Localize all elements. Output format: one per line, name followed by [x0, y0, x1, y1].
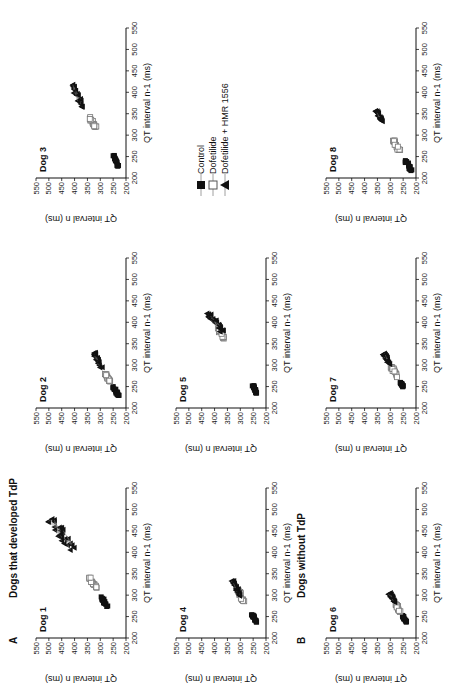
svg-text:200: 200 — [122, 642, 131, 655]
svg-text:QT interval n-1 (ms): QT interval n-1 (ms) — [142, 63, 152, 143]
svg-text:500: 500 — [130, 43, 139, 56]
svg-text:500: 500 — [184, 412, 193, 425]
svg-text:450: 450 — [347, 642, 356, 655]
svg-text:300: 300 — [270, 589, 279, 602]
svg-text:550: 550 — [172, 642, 181, 655]
svg-text:400: 400 — [420, 86, 429, 99]
svg-text:250: 250 — [109, 412, 118, 425]
figure: A Dogs that developed TdP B Dogs without… — [0, 0, 449, 696]
svg-text:QT interval n (ms): QT interval n (ms) — [185, 444, 257, 454]
plot-dog-1: 2002002502503003003503504004004504505005… — [22, 481, 157, 686]
section-a-letter: A — [8, 637, 19, 644]
svg-text:500: 500 — [44, 412, 53, 425]
svg-text:QT interval n-1 (ms): QT interval n-1 (ms) — [142, 293, 152, 373]
svg-text:350: 350 — [83, 182, 92, 195]
svg-text:400: 400 — [420, 546, 429, 559]
svg-text:350: 350 — [270, 337, 279, 350]
svg-text:450: 450 — [270, 295, 279, 308]
svg-text:400: 400 — [130, 546, 139, 559]
svg-text:300: 300 — [130, 359, 139, 372]
svg-text:450: 450 — [57, 182, 66, 195]
svg-text:450: 450 — [57, 642, 66, 655]
svg-text:550: 550 — [322, 182, 331, 195]
svg-text:550: 550 — [322, 642, 331, 655]
svg-text:350: 350 — [83, 642, 92, 655]
svg-text:550: 550 — [270, 252, 279, 265]
svg-text:450: 450 — [270, 525, 279, 538]
plot-dog-2: 2002002502503003003503504004004504505005… — [22, 251, 157, 456]
legend-item-dofetilide: Dofetilide — [207, 83, 219, 196]
svg-text:200: 200 — [130, 402, 139, 415]
svg-text:500: 500 — [44, 642, 53, 655]
svg-text:300: 300 — [236, 642, 245, 655]
svg-text:400: 400 — [270, 316, 279, 329]
svg-text:QT interval n (ms): QT interval n (ms) — [45, 674, 117, 684]
svg-text:200: 200 — [130, 632, 139, 645]
svg-text:Dog 2: Dog 2 — [38, 377, 48, 402]
svg-text:250: 250 — [109, 182, 118, 195]
svg-text:550: 550 — [420, 252, 429, 265]
svg-text:400: 400 — [270, 546, 279, 559]
svg-text:QT interval n-1 (ms): QT interval n-1 (ms) — [432, 63, 442, 143]
svg-text:450: 450 — [130, 525, 139, 538]
svg-text:550: 550 — [32, 412, 41, 425]
svg-text:QT interval n-1 (ms): QT interval n-1 (ms) — [432, 523, 442, 603]
svg-text:500: 500 — [184, 642, 193, 655]
svg-text:500: 500 — [420, 273, 429, 286]
svg-text:Dog 3: Dog 3 — [38, 147, 48, 172]
svg-text:300: 300 — [270, 359, 279, 372]
svg-text:450: 450 — [347, 182, 356, 195]
svg-text:550: 550 — [420, 482, 429, 495]
svg-text:200: 200 — [130, 172, 139, 185]
svg-text:250: 250 — [130, 610, 139, 623]
svg-text:300: 300 — [96, 182, 105, 195]
svg-text:250: 250 — [399, 642, 408, 655]
svg-text:300: 300 — [130, 589, 139, 602]
plot-dog-6: 2002002502503003003503504004004504505005… — [312, 481, 447, 686]
svg-text:400: 400 — [210, 412, 219, 425]
svg-text:QT interval n (ms): QT interval n (ms) — [335, 444, 407, 454]
svg-text:200: 200 — [420, 172, 429, 185]
svg-text:500: 500 — [420, 43, 429, 56]
svg-text:350: 350 — [83, 412, 92, 425]
svg-text:300: 300 — [420, 129, 429, 142]
svg-text:250: 250 — [420, 150, 429, 163]
svg-text:350: 350 — [420, 107, 429, 120]
legend-item-control: Control — [195, 83, 207, 196]
svg-text:500: 500 — [420, 503, 429, 516]
svg-text:450: 450 — [347, 412, 356, 425]
legend-item-dofetilide-hmr: Dofetilide + HMR 1556 — [219, 83, 231, 196]
svg-text:350: 350 — [223, 412, 232, 425]
svg-text:550: 550 — [322, 412, 331, 425]
svg-text:Dog 5: Dog 5 — [178, 377, 188, 402]
svg-text:300: 300 — [96, 412, 105, 425]
svg-text:400: 400 — [360, 642, 369, 655]
svg-text:250: 250 — [270, 610, 279, 623]
svg-text:350: 350 — [420, 567, 429, 580]
svg-text:350: 350 — [270, 567, 279, 580]
svg-text:450: 450 — [130, 65, 139, 78]
svg-text:450: 450 — [130, 295, 139, 308]
filled-square-marker-icon — [195, 174, 207, 196]
svg-text:200: 200 — [420, 402, 429, 415]
svg-text:350: 350 — [373, 642, 382, 655]
svg-text:QT interval n (ms): QT interval n (ms) — [335, 214, 407, 224]
svg-text:200: 200 — [412, 182, 421, 195]
svg-text:450: 450 — [197, 412, 206, 425]
svg-text:500: 500 — [44, 182, 53, 195]
svg-text:550: 550 — [130, 482, 139, 495]
plot-dog-3: 2002002502503003003503504004004504505005… — [22, 21, 157, 226]
svg-text:250: 250 — [270, 380, 279, 393]
svg-text:250: 250 — [249, 642, 258, 655]
svg-text:250: 250 — [399, 412, 408, 425]
svg-text:500: 500 — [130, 503, 139, 516]
svg-text:400: 400 — [70, 642, 79, 655]
svg-text:300: 300 — [130, 129, 139, 142]
svg-text:250: 250 — [399, 182, 408, 195]
svg-text:400: 400 — [360, 412, 369, 425]
svg-text:Dog 1: Dog 1 — [38, 607, 48, 632]
svg-text:400: 400 — [70, 182, 79, 195]
svg-text:350: 350 — [373, 182, 382, 195]
svg-text:450: 450 — [420, 295, 429, 308]
svg-text:QT interval n-1 (ms): QT interval n-1 (ms) — [142, 523, 152, 603]
